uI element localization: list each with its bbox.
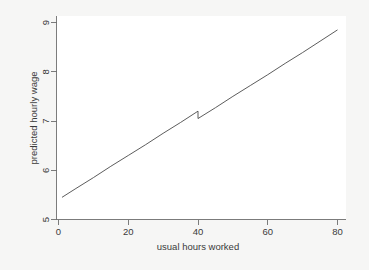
y-axis-title: predicted hourly wage [28,72,39,165]
x-tick-label: 20 [123,226,134,237]
x-tick-label: 0 [56,226,61,237]
x-tick-label: 80 [332,226,343,237]
y-tick-label: 8 [40,69,51,74]
x-tick-label: 60 [262,226,273,237]
x-axis-title: usual hours worked [157,241,239,252]
plot-area-background [56,16,346,219]
y-tick-label: 7 [40,118,51,123]
y-tick-label: 9 [40,20,51,25]
y-tick-label: 5 [40,217,51,222]
chart-figure: 9 8 7 6 5 predicted hourly wage 0 20 40 … [0,0,369,270]
x-tick-label: 40 [193,226,204,237]
line-chart: 9 8 7 6 5 predicted hourly wage 0 20 40 … [0,0,369,270]
y-tick-label: 6 [40,168,51,173]
